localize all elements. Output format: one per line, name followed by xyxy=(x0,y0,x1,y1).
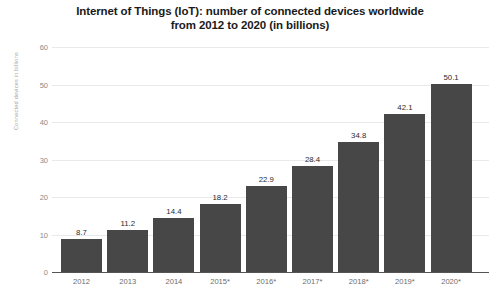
chart-title: Internet of Things (IoT): number of conn… xyxy=(40,4,460,32)
bar[interactable] xyxy=(200,204,241,272)
x-axis-tick-label: 2014 xyxy=(153,277,194,286)
chart-container: Internet of Things (IoT): number of conn… xyxy=(0,0,497,300)
gridline xyxy=(52,85,489,86)
y-axis-tick-labels: 0102030405060 xyxy=(20,47,48,272)
x-axis-tick-label: 2019* xyxy=(384,277,425,286)
x-axis-tick-label: 2012 xyxy=(61,277,102,286)
x-axis-tick-label: 2013 xyxy=(107,277,148,286)
bar-value-label: 28.4 xyxy=(292,155,333,164)
x-axis-line xyxy=(52,272,489,273)
x-axis-tick-label: 2015* xyxy=(200,277,241,286)
bar[interactable] xyxy=(153,218,194,272)
bar-value-label: 22.9 xyxy=(246,175,287,184)
plot-area: 8.711.214.418.222.928.434.842.150.1 xyxy=(52,47,489,272)
bar[interactable] xyxy=(107,230,148,272)
x-axis-tick-label: 2017* xyxy=(292,277,333,286)
bar-value-label: 11.2 xyxy=(107,219,148,228)
chart-title-line-2: from 2012 to 2020 (in billions) xyxy=(40,18,460,32)
bar-value-label: 18.2 xyxy=(200,193,241,202)
y-axis-tick-label: 0 xyxy=(22,268,48,277)
y-axis-tick-label: 30 xyxy=(22,155,48,164)
bar-value-label: 42.1 xyxy=(384,103,425,112)
bar[interactable] xyxy=(338,142,379,273)
bar-value-label: 34.8 xyxy=(338,131,379,140)
bar[interactable] xyxy=(61,239,102,272)
bar[interactable] xyxy=(384,114,425,272)
y-axis-tick-label: 50 xyxy=(22,80,48,89)
y-axis-tick-label: 40 xyxy=(22,118,48,127)
y-axis-title: Connected devices in billions xyxy=(13,31,19,151)
bar[interactable] xyxy=(246,186,287,272)
y-axis-tick-label: 60 xyxy=(22,43,48,52)
x-axis-tick-label: 2016* xyxy=(246,277,287,286)
bar[interactable] xyxy=(431,84,472,272)
bar-value-label: 14.4 xyxy=(153,207,194,216)
y-axis-tick-label: 20 xyxy=(22,193,48,202)
x-axis-tick-label: 2018* xyxy=(338,277,379,286)
chart-title-line-1: Internet of Things (IoT): number of conn… xyxy=(40,4,460,18)
gridline xyxy=(52,47,489,48)
bar[interactable] xyxy=(292,166,333,273)
x-axis-tick-label: 2020* xyxy=(431,277,472,286)
bar-value-label: 50.1 xyxy=(431,73,472,82)
bar-value-label: 8.7 xyxy=(61,228,102,237)
y-axis-tick-label: 10 xyxy=(22,230,48,239)
